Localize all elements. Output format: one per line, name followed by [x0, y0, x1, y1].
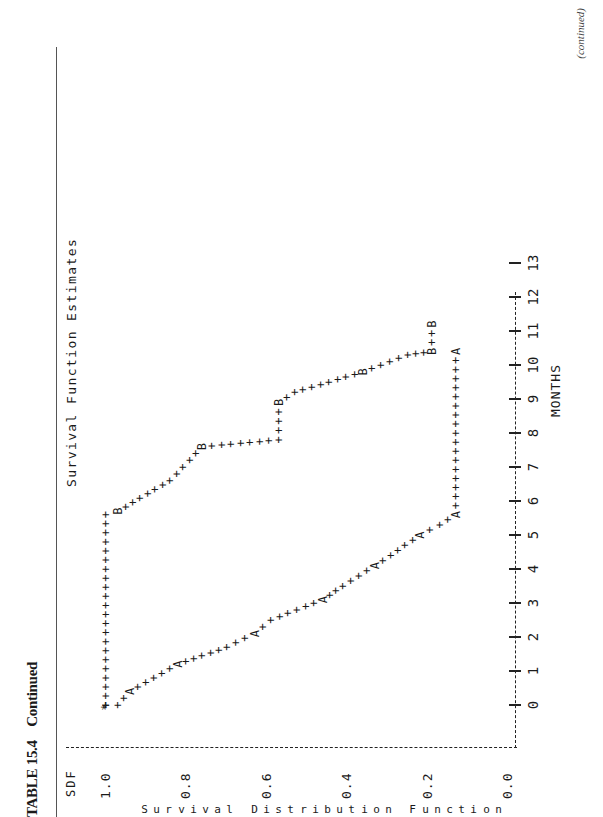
plot-point-B: +: [100, 618, 112, 628]
plot-point-A: +: [450, 383, 462, 393]
plot-point-A: +: [450, 491, 462, 501]
plot-point-B: +: [100, 537, 112, 547]
plot-point-A: +: [450, 392, 462, 402]
plot-point-A: +: [450, 446, 462, 456]
plot-point-A: +: [450, 501, 462, 511]
plot-point-B: +: [100, 637, 112, 647]
plot-point-A: +: [450, 355, 462, 365]
plot-point-A: +: [450, 428, 462, 438]
plot-point-B: +: [273, 425, 285, 435]
plot-point-A: +: [450, 437, 462, 447]
plot-point-B: B: [426, 346, 438, 356]
plot-point-A: +: [450, 401, 462, 411]
plot-point-A: +: [450, 482, 462, 492]
plot-point-B: +: [426, 328, 438, 338]
plot-point-B: +: [100, 691, 112, 701]
plot-point-B: +: [100, 519, 112, 529]
plot-point-A: +: [450, 374, 462, 384]
plot-point-B: +: [100, 600, 112, 610]
plot-point-B: +: [100, 682, 112, 692]
continued-note: (continued): [574, 8, 586, 59]
plot-point-A: +: [450, 473, 462, 483]
plot-point-B: +: [273, 435, 285, 445]
plot-point-A: +: [450, 410, 462, 420]
plot-point-A: +: [450, 365, 462, 375]
plot-area: +++A+++++A++++++++A+++++++A++++++A+++++A…: [0, 0, 603, 817]
plot-point-A: A: [450, 510, 462, 520]
plot-point-B: +: [273, 407, 285, 417]
plot-point-B: +: [100, 573, 112, 583]
plot-point-B: +: [100, 646, 112, 656]
plot-point-B: +: [273, 416, 285, 426]
plot-point-B: +: [100, 546, 112, 556]
plot-point-B: +: [100, 555, 112, 565]
plot-point-B: +: [100, 627, 112, 637]
plot-point-overlap-star: *: [100, 702, 112, 712]
plot-point-B: +: [426, 337, 438, 347]
plot-point-A-end: A: [450, 346, 462, 356]
plot-point-A: +: [450, 464, 462, 474]
plot-point-B: +: [100, 528, 112, 538]
plot-point-B: +: [100, 609, 112, 619]
rotated-landscape-page: TABLE 15.4 Continued SDF Survival Functi…: [0, 0, 603, 817]
plot-point-B: +: [100, 655, 112, 665]
plot-point-B: +: [100, 591, 112, 601]
plot-point-B-end: B: [426, 319, 438, 329]
plot-point-B: +: [100, 564, 112, 574]
plot-point-B: +: [100, 582, 112, 592]
plot-point-A: +: [450, 455, 462, 465]
plot-point-B: +: [100, 673, 112, 683]
plot-point-B: +: [100, 664, 112, 674]
plot-point-A: +: [450, 419, 462, 429]
